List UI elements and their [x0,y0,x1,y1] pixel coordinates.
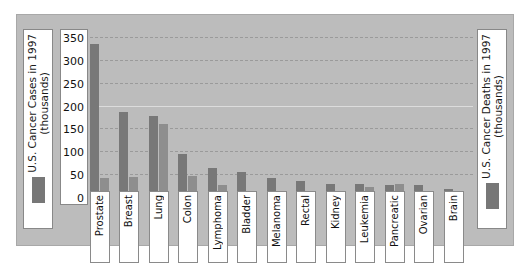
category-label: Lymphoma [213,195,223,250]
bar-group [355,37,384,197]
category-label-box: Kidney [326,191,346,263]
x-axis-category: Breast [119,191,148,263]
legend-right-label: U.S. Cancer Deaths in 1997 (thousands) [480,34,505,179]
x-axis-category: Melanoma [267,191,296,263]
legend-left-cases: U.S. Cancer Cases in 1997 (thousands) [23,29,53,229]
bar-group [385,37,414,197]
bar-group [208,37,237,197]
category-label-box: Leukemia [355,191,375,263]
x-axis-category: Lymphoma [208,191,237,263]
category-label-box: Prostate [90,191,110,263]
category-label-box: Rectal [296,191,316,263]
legend-left-label: U.S. Cancer Cases in 1997 (thousands) [26,34,51,173]
plot-area [90,37,473,197]
category-label: Bladder [242,195,252,234]
category-label: Kidney [331,195,341,229]
category-label: Colon [183,195,193,223]
bar-group [444,37,473,197]
y-axis-tick: 0 [77,193,84,204]
y-axis-tick: 300 [63,55,84,66]
category-label: Lung [154,195,164,219]
bar-deaths [159,124,168,197]
bar-group [296,37,325,197]
x-axis-category: Pancreatic [385,191,414,263]
category-label: Breast [124,195,134,227]
category-label: Melanoma [272,195,282,247]
x-axis-category: Ovarian [414,191,443,263]
legend-left-swatch [32,177,45,203]
y-axis-tick: 150 [63,124,84,135]
x-axis-category: Bladder [237,191,266,263]
bar-cases [149,116,158,197]
category-label-box: Pancreatic [385,191,405,263]
bar-group [119,37,148,197]
y-axis-tick: 50 [70,170,84,181]
category-label: Prostate [95,195,105,236]
category-label-box: Melanoma [267,191,287,263]
bar-group [326,37,355,197]
bar-cases [119,112,128,197]
legend-right-swatch [486,183,499,209]
category-label-box: Colon [178,191,198,263]
category-label-box: Lymphoma [208,191,228,263]
y-axis-tick: 250 [63,78,84,89]
category-label: Brain [449,195,459,221]
x-axis-category: Rectal [296,191,325,263]
bar-group [178,37,207,197]
category-label-box: Bladder [237,191,257,263]
x-axis-category: Prostate [90,191,119,263]
category-label: Rectal [301,195,311,226]
x-axis-category-labels: ProstateBreastLungColonLymphomaBladderMe… [90,191,473,263]
y-axis: 350300250200150100500 [60,29,88,205]
bar-group [90,37,119,197]
bar-group [267,37,296,197]
chart-figure: U.S. Cancer Cases in 1997 (thousands) U.… [16,14,514,246]
bar-group [414,37,443,197]
y-axis-tick: 200 [63,101,84,112]
x-axis-category: Colon [178,191,207,263]
x-axis-category: Brain [444,191,473,263]
category-label-box: Ovarian [414,191,434,263]
bar-group [149,37,178,197]
y-axis-tick: 100 [63,147,84,158]
y-axis-tick: 350 [63,33,84,44]
x-axis-category: Leukemia [355,191,384,263]
x-axis-category: Kidney [326,191,355,263]
category-label: Ovarian [419,195,429,234]
bar-series-container [90,37,473,197]
x-axis-category: Lung [149,191,178,263]
category-label: Leukemia [360,195,370,243]
category-label-box: Breast [119,191,139,263]
legend-right-deaths: U.S. Cancer Deaths in 1997 (thousands) [477,29,507,229]
category-label-box: Brain [444,191,464,263]
bar-cases [90,44,99,197]
category-label: Pancreatic [390,195,400,247]
bar-group [237,37,266,197]
category-label-box: Lung [149,191,169,263]
